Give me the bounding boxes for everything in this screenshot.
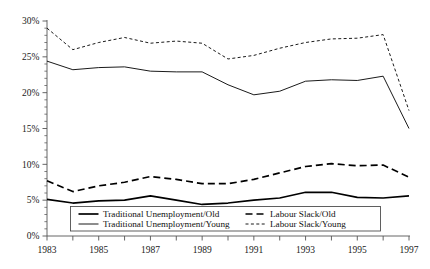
legend-label-0: Traditional Unemployment/Old [103, 209, 220, 219]
legend-label-2: Traditional Unemployment/Young [103, 219, 230, 229]
y-axis-tick-label: 20% [22, 88, 40, 98]
y-axis-tick-label: 15% [22, 124, 40, 134]
x-axis-tick-label: 1997 [400, 245, 419, 255]
legend-label-3: Labour Slack/Young [270, 219, 346, 229]
chart-container: 0%5%10%15%20%25%30% 19831985198719891991… [0, 0, 430, 269]
y-axis-tick-label: 10% [22, 160, 40, 170]
x-axis-tick-label: 1983 [38, 245, 57, 255]
x-axis-tick-label: 1987 [141, 245, 160, 255]
x-axis-tick-label: 1985 [89, 245, 108, 255]
x-axis-tick-label: 1995 [348, 245, 367, 255]
y-axis-tick-label: 5% [27, 195, 40, 205]
y-axis-tick-label: 0% [27, 231, 40, 241]
line-chart: 0%5%10%15%20%25%30% 19831985198719891991… [0, 0, 430, 269]
x-axis-tick-label: 1989 [193, 245, 212, 255]
y-axis-tick-label: 30% [22, 16, 40, 26]
y-axis-tick-label: 25% [22, 52, 40, 62]
x-axis-tick-label: 1991 [244, 245, 263, 255]
chart-legend: Traditional Unemployment/OldLabour Slack… [71, 207, 381, 232]
legend-label-1: Labour Slack/Old [270, 209, 336, 219]
x-axis-tick-label: 1993 [296, 245, 315, 255]
